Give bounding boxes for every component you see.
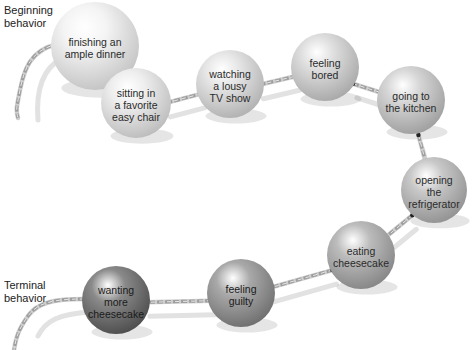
balls <box>51 2 467 334</box>
terminal-behavior-label: Terminal behavior <box>4 279 46 305</box>
chain-graphic <box>0 0 476 350</box>
ball-feeling-bored <box>291 33 359 101</box>
ball-going-kitchen <box>377 66 445 134</box>
ball-wanting-more <box>82 266 150 334</box>
ball-eating-cheesecake <box>327 221 395 289</box>
beginning-behavior-label: Beginning behavior <box>4 4 53 30</box>
ball-watching-tv <box>196 50 264 118</box>
behavior-chain-diagram: Beginning behavior Terminal behavior fin… <box>0 0 476 350</box>
ball-sitting-chair <box>101 68 171 138</box>
ball-feeling-guilty <box>207 259 275 327</box>
ball-opening-fridge <box>401 157 467 223</box>
